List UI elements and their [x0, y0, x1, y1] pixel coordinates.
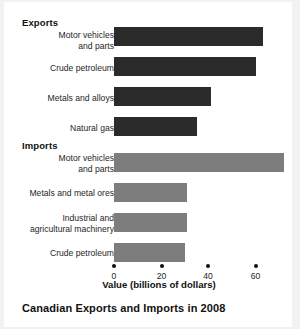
chart-caption: Canadian Exports and Imports in 2008 [22, 302, 226, 314]
bar-imports-2 [114, 213, 187, 232]
axis-tick-dot-60 [254, 264, 258, 268]
chart-card: Exports Motor vehicles and parts Crude p… [4, 2, 292, 327]
axis-tick-dot-40 [206, 264, 210, 268]
category-label-exports-1: Crude petroleum [0, 63, 114, 74]
bar-imports-1 [114, 183, 187, 202]
axis-title-x-text: Value (billions of dollars) [102, 279, 216, 290]
bar-exports-3 [114, 117, 197, 136]
category-label-imports-1: Metals and metal ores [0, 188, 114, 199]
bar-exports-1 [114, 57, 256, 76]
category-label-imports-3: Crude petroleum [0, 248, 114, 259]
bar-exports-2 [114, 87, 211, 106]
bar-exports-0 [114, 27, 263, 46]
category-label-exports-0: Motor vehicles and parts [0, 30, 114, 51]
bar-imports-0 [114, 153, 284, 172]
category-label-exports-3: Natural gas [0, 123, 114, 134]
bar-imports-3 [114, 243, 185, 262]
chart-page: Exports Motor vehicles and parts Crude p… [0, 0, 300, 329]
axis-tick-dot-20 [160, 264, 164, 268]
category-label-imports-2: Industrial and agricultural machinery [0, 213, 114, 234]
category-label-imports-0: Motor vehicles and parts [0, 153, 114, 174]
axis-title-x: Value (billions of dollars) [4, 279, 292, 290]
plot-area: Exports Motor vehicles and parts Crude p… [4, 2, 292, 292]
group-title-imports: Imports [22, 140, 58, 151]
axis-tick-dot-0 [112, 264, 116, 268]
category-label-exports-2: Metals and alloys [0, 93, 114, 104]
group-title-exports: Exports [22, 17, 58, 28]
